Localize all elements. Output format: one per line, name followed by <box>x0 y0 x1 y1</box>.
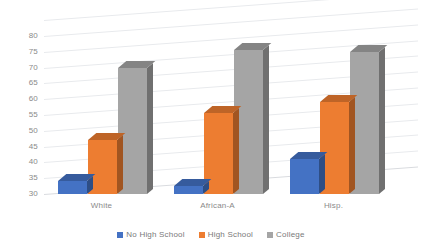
bar-front-face <box>290 159 319 194</box>
y-axis: 8075706560555045403530 <box>6 0 38 251</box>
bar-front-face <box>58 181 87 194</box>
x-axis-tick-label: White <box>57 201 147 210</box>
y-axis-tick-label: 45 <box>12 143 38 151</box>
y-axis-tick-label: 80 <box>12 32 38 40</box>
y-axis-tick-label: 55 <box>12 111 38 119</box>
bar-chart: 8075706560555045403530 WhiteAfrican-AHis… <box>0 0 422 251</box>
y-axis-tick-label: 70 <box>12 64 38 72</box>
y-axis-tick-label: 65 <box>12 79 38 87</box>
bar-side-face <box>379 47 385 194</box>
bar-no-high-school-white[interactable] <box>58 181 87 194</box>
y-axis-tick-label: 60 <box>12 95 38 103</box>
bar-no-high-school-hisp-[interactable] <box>290 159 319 194</box>
legend-item-high-school[interactable]: High School <box>199 230 253 239</box>
bar-side-face <box>117 135 123 194</box>
x-axis-tick-label: Hisp. <box>289 201 379 210</box>
bar-side-face <box>319 154 325 194</box>
y-axis-tick-label: 75 <box>12 48 38 56</box>
legend-label: High School <box>208 230 253 239</box>
bar-front-face <box>174 186 203 194</box>
bar-no-high-school-african-a[interactable] <box>174 186 203 194</box>
legend-label: College <box>276 230 305 239</box>
y-axis-tick-label: 40 <box>12 158 38 166</box>
bar-side-face <box>147 63 153 194</box>
chart-legend: No High SchoolHigh SchoolCollege <box>0 230 422 239</box>
plot-area <box>44 22 418 194</box>
x-axis-tick-label: African-A <box>173 201 263 210</box>
y-axis-tick-label: 50 <box>12 127 38 135</box>
legend-swatch-icon <box>117 232 123 238</box>
legend-swatch-icon <box>199 232 205 238</box>
bar-side-face <box>349 97 355 194</box>
legend-swatch-icon <box>267 232 273 238</box>
gridline <box>44 9 418 37</box>
gridline <box>44 0 418 21</box>
y-axis-tick-label: 35 <box>12 174 38 182</box>
legend-item-college[interactable]: College <box>267 230 305 239</box>
legend-label: No High School <box>126 230 184 239</box>
y-axis-tick-label: 30 <box>12 190 38 198</box>
bar-side-face <box>233 108 239 194</box>
legend-item-no-high-school[interactable]: No High School <box>117 230 184 239</box>
bar-side-face <box>263 45 269 194</box>
